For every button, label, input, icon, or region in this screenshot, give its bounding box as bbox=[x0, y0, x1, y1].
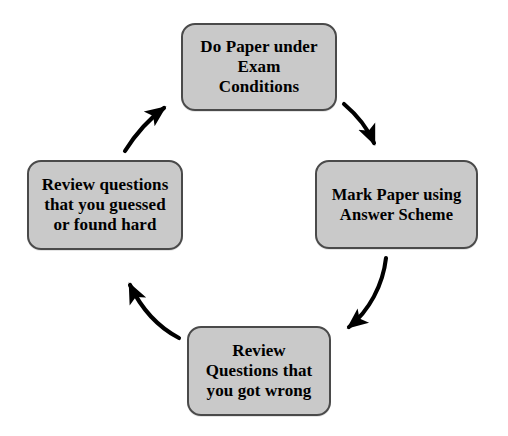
arrow-top-to-right bbox=[344, 104, 374, 143]
node-do-paper-label: Do Paper under Exam Conditions bbox=[189, 37, 329, 97]
arrow-bottom-to-left bbox=[130, 285, 179, 338]
node-review-wrong-label: Review Questions that you got wrong bbox=[195, 341, 323, 401]
node-mark-paper[interactable]: Mark Paper using Answer Scheme bbox=[315, 160, 478, 249]
arrow-right-to-bottom bbox=[349, 258, 386, 327]
node-review-guessed-label: Review questions that you guessed or fou… bbox=[35, 175, 175, 235]
node-review-guessed[interactable]: Review questions that you guessed or fou… bbox=[27, 160, 183, 250]
node-review-wrong[interactable]: Review Questions that you got wrong bbox=[187, 326, 331, 416]
arrow-left-to-top bbox=[125, 108, 164, 151]
node-mark-paper-label: Mark Paper using Answer Scheme bbox=[323, 185, 470, 224]
node-do-paper[interactable]: Do Paper under Exam Conditions bbox=[181, 23, 337, 111]
cycle-diagram: Do Paper under Exam Conditions Mark Pape… bbox=[0, 0, 508, 436]
